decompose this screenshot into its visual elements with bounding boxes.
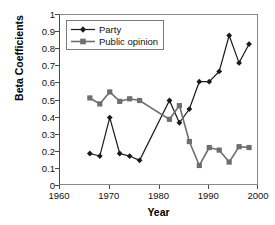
data-point-square bbox=[187, 139, 192, 144]
y-axis-tick-label: 0.9 bbox=[25, 27, 55, 36]
data-point-square bbox=[107, 89, 112, 94]
x-axis-tick-mark bbox=[109, 185, 110, 189]
data-point-diamond bbox=[137, 157, 143, 163]
square-marker-icon bbox=[70, 36, 96, 47]
x-axis-tick-mark bbox=[59, 185, 60, 189]
series-party bbox=[87, 33, 252, 164]
data-point-diamond bbox=[246, 41, 252, 47]
x-axis-tick-mark bbox=[208, 185, 209, 189]
y-axis-tick-label: 0.3 bbox=[25, 129, 55, 138]
data-point-square bbox=[207, 145, 212, 150]
y-axis-tick-label: 0.8 bbox=[25, 44, 55, 53]
y-axis-tick-label: 0.1 bbox=[25, 163, 55, 172]
legend-label-public-opinion: Public opinion bbox=[96, 36, 158, 47]
data-point-diamond bbox=[127, 153, 133, 159]
data-point-diamond bbox=[87, 151, 93, 157]
y-axis-tick-label: 0.5 bbox=[25, 95, 55, 104]
data-point-square bbox=[167, 117, 172, 122]
chart-legend: Party Public opinion bbox=[66, 20, 164, 50]
data-point-square bbox=[227, 159, 232, 164]
diamond-marker-icon bbox=[70, 24, 96, 35]
x-axis-tick-label: 1980 bbox=[137, 190, 181, 201]
data-point-square bbox=[137, 98, 142, 103]
data-point-diamond bbox=[117, 151, 123, 157]
x-axis-tick-label: 1960 bbox=[37, 190, 81, 201]
chart-figure: Beta Coefficients 00.10.20.30.40.50.60.7… bbox=[0, 0, 275, 225]
data-point-diamond bbox=[107, 115, 113, 121]
data-point-square bbox=[217, 147, 222, 152]
data-point-square bbox=[237, 144, 242, 149]
x-axis-tick-labels: 19601970198019902000 bbox=[59, 190, 258, 204]
x-axis-tick-mark bbox=[257, 185, 258, 189]
data-point-diamond bbox=[97, 153, 103, 159]
legend-item-party: Party bbox=[70, 23, 158, 35]
data-point-diamond bbox=[236, 60, 242, 66]
x-axis-tick-mark bbox=[159, 185, 160, 189]
data-point-diamond bbox=[226, 33, 232, 39]
x-axis-tick-label: 1990 bbox=[186, 190, 230, 201]
legend-item-public-opinion: Public opinion bbox=[70, 35, 158, 47]
data-point-square bbox=[197, 163, 202, 168]
y-axis-tick-label: 0.6 bbox=[25, 78, 55, 87]
x-axis-title: Year bbox=[59, 206, 258, 218]
y-axis-tick-label: 0.2 bbox=[25, 146, 55, 155]
x-axis-tick-label: 2000 bbox=[236, 190, 275, 201]
y-axis-tick-label: 1 bbox=[25, 10, 55, 19]
data-point-square bbox=[177, 103, 182, 108]
data-point-square bbox=[97, 101, 102, 106]
y-axis-tick-label: 0.4 bbox=[25, 112, 55, 121]
legend-label-party: Party bbox=[96, 24, 121, 35]
y-axis-tick-label: 0.7 bbox=[25, 61, 55, 70]
data-point-square bbox=[117, 99, 122, 104]
data-point-square bbox=[87, 95, 92, 100]
data-point-diamond bbox=[196, 79, 202, 85]
data-point-diamond bbox=[167, 98, 173, 104]
data-point-square bbox=[246, 145, 251, 150]
data-point-square bbox=[127, 96, 132, 101]
y-axis-tick-labels: 00.10.20.30.40.50.60.70.80.91 bbox=[22, 14, 55, 185]
x-axis-tick-label: 1970 bbox=[87, 190, 131, 201]
y-axis-tick-label: 0 bbox=[25, 181, 55, 190]
